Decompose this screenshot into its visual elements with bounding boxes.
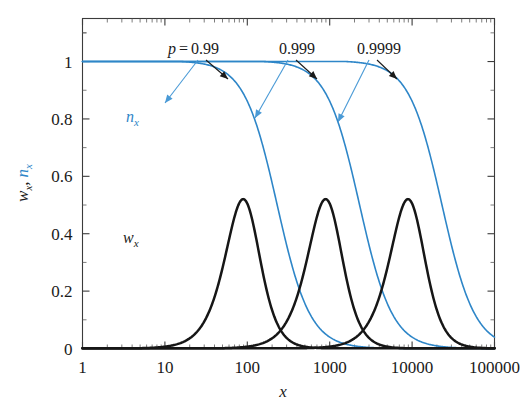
annotation-p-0-99-value: 0.99 bbox=[191, 40, 219, 57]
y-tick-label-1: 1 bbox=[64, 53, 73, 72]
curve-label-nx-base: n bbox=[126, 108, 134, 125]
y-tick-label-0.6: 0.6 bbox=[51, 167, 72, 186]
annotation-labels: p=0.99 0.999 0.9999 bbox=[167, 40, 401, 58]
x-tick-label-10: 10 bbox=[156, 358, 173, 377]
y-axis-title-n-subscript: x bbox=[22, 164, 34, 170]
curve-label-wx-base: w bbox=[123, 229, 134, 246]
annotation-p-0-999: 0.999 bbox=[279, 40, 315, 57]
svg-text:wx,nx: wx,nx bbox=[13, 164, 34, 202]
curve-label-nx-subscript: x bbox=[133, 116, 139, 128]
y-axis-title: wx,nx bbox=[13, 164, 34, 202]
annotation-p-0-99: p=0.99 bbox=[167, 40, 219, 58]
x-tick-label-1000: 1000 bbox=[313, 358, 347, 377]
curve-label-wx-subscript: x bbox=[133, 237, 139, 249]
y-tick-label-0.4: 0.4 bbox=[51, 225, 73, 244]
y-axis-title-w: w bbox=[13, 190, 32, 202]
y-axis-title-n: n bbox=[13, 169, 32, 178]
annotation-p-symbol: p bbox=[167, 40, 176, 58]
x-tick-label-1: 1 bbox=[78, 358, 87, 377]
y-axis-title-comma: , bbox=[13, 181, 32, 185]
x-axis-title: x bbox=[278, 382, 287, 401]
x-tick-label-10000: 10000 bbox=[391, 358, 434, 377]
chart-svg: 110100100010000100000 00.20.40.60.81 p=0… bbox=[0, 0, 520, 415]
y-tick-label-0.2: 0.2 bbox=[51, 282, 72, 301]
x-tick-label-100: 100 bbox=[235, 358, 261, 377]
x-tick-label-100000: 100000 bbox=[469, 358, 520, 377]
y-tick-label-0: 0 bbox=[64, 340, 73, 359]
chart-figure: 110100100010000100000 00.20.40.60.81 p=0… bbox=[0, 0, 520, 415]
annotation-equals-sign: = bbox=[179, 40, 188, 57]
y-tick-label-0.8: 0.8 bbox=[51, 110, 72, 129]
annotation-p-0-9999: 0.9999 bbox=[357, 40, 401, 57]
